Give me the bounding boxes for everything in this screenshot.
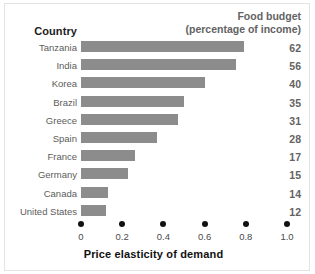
row-label-country: India	[56, 60, 77, 71]
bar	[81, 41, 244, 52]
axis-tick-label: 0.8	[229, 231, 263, 242]
axis-tick-dot-icon	[243, 221, 249, 227]
plot-area: Country Food budget (percentage of incom…	[0, 0, 315, 274]
row-value-food-budget: 40	[289, 78, 301, 90]
bar	[81, 168, 128, 179]
row-value-food-budget: 56	[289, 60, 301, 72]
x-axis-title: Price elasticity of demand	[0, 248, 315, 260]
row-label-country: Korea	[52, 78, 77, 89]
bar	[81, 77, 205, 88]
axis-tick-label: 0.6	[188, 231, 222, 242]
bar	[81, 132, 157, 143]
row-label-country: Spain	[53, 133, 77, 144]
bar	[81, 114, 178, 125]
axis-tick-dot-icon	[119, 221, 125, 227]
axis-tick-dot-icon	[284, 221, 290, 227]
food-budget-header-line1: Food budget	[185, 10, 301, 23]
bar	[81, 150, 135, 161]
axis-tick-label: 0.4	[146, 231, 180, 242]
food-budget-header-line2: (percentage of income)	[185, 23, 301, 36]
axis-tick-dot-icon	[160, 221, 166, 227]
row-label-country: Brazil	[53, 97, 77, 108]
bar	[81, 205, 106, 216]
row-value-food-budget: 12	[289, 206, 301, 218]
axis-tick-label: 0	[64, 231, 98, 242]
x-axis-title-text: Price elasticity of demand	[84, 248, 224, 260]
bar	[81, 187, 108, 198]
bar	[81, 59, 236, 70]
bar	[81, 96, 184, 107]
row-value-food-budget: 17	[289, 151, 301, 163]
row-label-country: France	[47, 151, 77, 162]
row-value-food-budget: 31	[289, 115, 301, 127]
chart-figure: Country Food budget (percentage of incom…	[0, 0, 315, 274]
axis-tick-label: 1.0	[270, 231, 304, 242]
axis-tick-label: 0.2	[105, 231, 139, 242]
column-header-country: Country	[34, 25, 77, 37]
row-label-country: Germany	[38, 169, 77, 180]
row-value-food-budget: 62	[289, 42, 301, 54]
row-label-country: Canada	[44, 188, 77, 199]
row-value-food-budget: 14	[289, 188, 301, 200]
row-label-country: Tanzania	[39, 42, 77, 53]
row-value-food-budget: 28	[289, 133, 301, 145]
row-label-country: United States	[20, 206, 77, 217]
row-label-country: Greece	[46, 115, 77, 126]
axis-tick-dot-icon	[202, 221, 208, 227]
row-value-food-budget: 35	[289, 97, 301, 109]
column-header-food-budget: Food budget (percentage of income)	[185, 10, 301, 36]
row-value-food-budget: 15	[289, 169, 301, 181]
axis-tick-dot-icon	[78, 221, 84, 227]
